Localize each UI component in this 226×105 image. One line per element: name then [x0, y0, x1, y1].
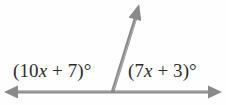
angle-diagram-svg — [0, 0, 226, 105]
arrowhead-right-icon — [208, 86, 222, 99]
arrowhead-left-icon — [4, 86, 18, 99]
angle-label-left-text: (10x + 7)° — [13, 60, 91, 81]
arrowhead-up-icon — [129, 4, 142, 21]
angle-label-right: (7x + 3)° — [128, 61, 197, 80]
angle-label-left: (10x + 7)° — [13, 61, 91, 80]
angle-label-right-text: (7x + 3)° — [128, 60, 197, 81]
angle-diagram: (10x + 7)° (7x + 3)° — [0, 0, 226, 105]
